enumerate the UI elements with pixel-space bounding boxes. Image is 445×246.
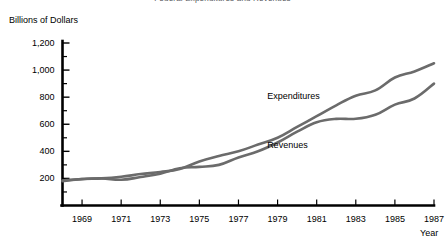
x-axis-tick-label: 1981 (307, 214, 327, 224)
y-axis-tick-label: 200 (0, 173, 55, 183)
series-line-expenditures (63, 63, 435, 181)
series-label-revenues: Revenues (267, 140, 308, 150)
series-line-revenues (63, 84, 435, 181)
chart-plot-area (0, 0, 445, 246)
x-axis-tick-label: 1969 (72, 214, 92, 224)
x-axis-tick-label: 1975 (189, 214, 209, 224)
y-axis-tick-label: 1,200 (0, 38, 55, 48)
series-label-expenditures: Expenditures (267, 91, 320, 101)
x-axis-tick-label: 1977 (228, 214, 248, 224)
x-axis-tick-label: 1979 (268, 214, 288, 224)
y-axis-tick-label: 800 (0, 92, 55, 102)
x-axis-tick-label: 1985 (385, 214, 405, 224)
x-axis-tick-label: 1971 (111, 214, 131, 224)
y-axis-tick-label: 600 (0, 119, 55, 129)
chart-figure: Federal Expenditures and Revenues Billio… (0, 0, 445, 246)
x-axis-tick-label: 1973 (150, 214, 170, 224)
x-axis-tick-label: 1983 (346, 214, 366, 224)
x-axis-title: Year (420, 228, 438, 238)
x-axis-tick-label: 1987 (424, 214, 444, 224)
y-axis-tick-label: 1,000 (0, 65, 55, 75)
y-axis-tick-label: 400 (0, 146, 55, 156)
